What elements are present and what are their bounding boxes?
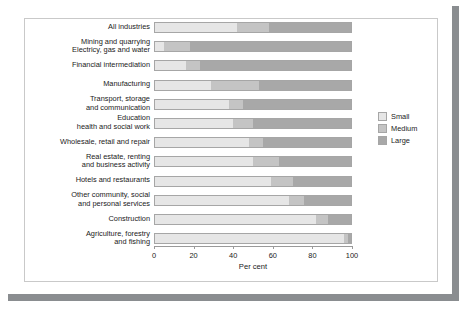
table-row (0, 176, 465, 187)
table-row (0, 214, 465, 225)
x-axis-tick (194, 246, 195, 249)
legend-item: Small (378, 112, 434, 121)
bar-segment-medium (229, 99, 243, 110)
bar-segment-small (154, 176, 271, 187)
bar-segment-small (154, 60, 186, 71)
bar-segment-small (154, 195, 289, 206)
chart-legend: SmallMediumLarge (378, 112, 434, 148)
table-row (0, 99, 465, 110)
x-axis-tick (352, 246, 353, 249)
bar-segment-large (304, 195, 352, 206)
bar-segment-small (154, 137, 249, 148)
table-row (0, 195, 465, 206)
legend-item: Medium (378, 124, 434, 133)
bar-segment-medium (316, 214, 328, 225)
bar-segment-small (154, 118, 233, 129)
table-row (0, 22, 465, 33)
plot-area: All industriesMining and quarrying Elect… (0, 0, 465, 310)
x-axis-tick-label: 0 (139, 251, 169, 260)
bar-segment-medium (271, 176, 293, 187)
x-axis-title: Per cent (153, 262, 353, 271)
bar-segment-small (154, 214, 316, 225)
bar-segment-medium (253, 156, 279, 167)
table-row (0, 60, 465, 71)
x-axis-tick (312, 246, 313, 249)
x-axis-line (154, 246, 352, 247)
bar-segment-medium (237, 22, 269, 33)
legend-label: Small (391, 112, 409, 121)
bar-segment-large (259, 80, 352, 91)
bar-segment-small (154, 80, 211, 91)
legend-swatch-large (378, 136, 387, 145)
bar-segment-large (200, 60, 352, 71)
x-axis-tick (233, 246, 234, 249)
legend-swatch-small (378, 112, 387, 121)
bar-segment-small (154, 22, 237, 33)
legend-label: Large (391, 136, 410, 145)
bar-segment-small (154, 99, 229, 110)
table-row (0, 156, 465, 167)
bar-segment-small (154, 41, 164, 52)
bar-segment-large (253, 118, 352, 129)
bar-segment-large (263, 137, 352, 148)
bar-segment-large (348, 233, 352, 244)
bar-segment-small (154, 156, 253, 167)
x-axis-tick (273, 246, 274, 249)
bar-segment-medium (289, 195, 305, 206)
bar-segment-large (243, 99, 352, 110)
legend-item: Large (378, 136, 434, 145)
table-row (0, 80, 465, 91)
table-row (0, 41, 465, 52)
bar-segment-medium (186, 60, 200, 71)
bar-segment-large (190, 41, 352, 52)
x-axis-tick (154, 246, 155, 249)
bar-segment-medium (249, 137, 263, 148)
bar-segment-large (269, 22, 352, 33)
legend-swatch-medium (378, 124, 387, 133)
x-axis-tick-label: 100 (337, 251, 367, 260)
bar-segment-large (279, 156, 352, 167)
x-axis-tick-label: 60 (258, 251, 288, 260)
bar-segment-large (293, 176, 352, 187)
chart-figure: All industriesMining and quarrying Elect… (0, 0, 465, 310)
x-axis-tick-label: 20 (179, 251, 209, 260)
bar-segment-medium (233, 118, 253, 129)
bar-segment-large (328, 214, 352, 225)
bar-segment-medium (164, 41, 190, 52)
x-axis-tick-label: 40 (218, 251, 248, 260)
bar-segment-medium (211, 80, 259, 91)
x-axis-tick-label: 80 (297, 251, 327, 260)
legend-label: Medium (391, 124, 417, 133)
bar-segment-small (154, 233, 344, 244)
table-row (0, 233, 465, 244)
